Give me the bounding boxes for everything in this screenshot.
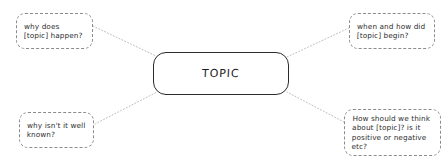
- branch-node-bottom-left[interactable]: why isn't it well known?: [19, 112, 94, 148]
- branch-label-bottom-left: why isn't it well known?: [27, 121, 86, 140]
- branch-node-top-left[interactable]: why does [topic] happen?: [16, 13, 93, 49]
- center-node-topic[interactable]: TOPIC: [153, 52, 289, 95]
- mind-map-canvas: why does [topic] happen? when and how di…: [0, 0, 448, 166]
- branch-node-top-right[interactable]: when and how did [topic] begin?: [349, 13, 435, 49]
- branch-label-bottom-right: How should we think about [topic]? is it…: [351, 114, 430, 152]
- connector-top-left: [93, 26, 156, 56]
- branch-node-bottom-right[interactable]: How should we think about [topic]? is it…: [344, 109, 441, 156]
- connector-bottom-right: [287, 92, 344, 122]
- branch-label-top-left: why does [topic] happen?: [24, 22, 83, 41]
- branch-label-top-right: when and how did [topic] begin?: [357, 22, 426, 41]
- connector-top-right: [287, 28, 349, 57]
- center-node-label: TOPIC: [202, 67, 240, 80]
- connector-bottom-left: [95, 92, 157, 124]
